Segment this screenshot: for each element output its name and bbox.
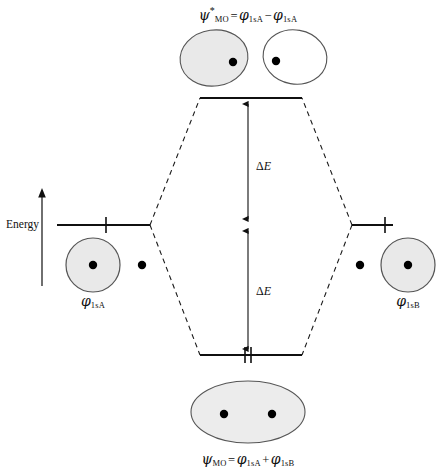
antibonding-left-lobe bbox=[176, 26, 251, 91]
energy-levels bbox=[57, 98, 393, 355]
antibonding-term2-subscript: 1sA bbox=[283, 14, 297, 24]
antibonding-formula-label: ψ*MO=φ1sA−φ1sA bbox=[199, 6, 297, 23]
antibonding-term2-phi: φ bbox=[273, 7, 283, 23]
left-ao-phi-symbol: φ bbox=[81, 293, 91, 309]
antibonding-orbital-group bbox=[176, 25, 331, 91]
antibonding-psi-subscript: MO bbox=[215, 14, 229, 24]
right-ao-subscript: 1sB bbox=[406, 300, 420, 310]
correlation-lines bbox=[150, 98, 352, 355]
bonding-nucleus-b bbox=[268, 410, 276, 418]
antibonding-right-nucleus bbox=[272, 57, 280, 65]
right-ao-phi-symbol: φ bbox=[396, 293, 406, 309]
right-ao-label: φ1sB bbox=[396, 294, 420, 310]
correlation-line-right-to-antibonding bbox=[302, 98, 352, 225]
antibonding-equals: = bbox=[229, 9, 239, 23]
right-atomic-orbital-group bbox=[356, 238, 435, 292]
delta-e-lower-delta: Δ bbox=[256, 284, 264, 298]
antibonding-psi-symbol: ψ bbox=[199, 7, 210, 23]
left-ao-subscript: 1sA bbox=[91, 300, 105, 310]
bonding-psi-subscript: MO bbox=[213, 458, 227, 468]
energy-axis bbox=[38, 188, 46, 286]
left-ao-label: φ1sA bbox=[81, 294, 105, 310]
bonding-equals: = bbox=[227, 453, 237, 467]
left-atomic-nucleus bbox=[89, 261, 97, 269]
diagram-canvas bbox=[0, 0, 447, 473]
bonding-formula-label: ψMO=φ1sA+φ1sB bbox=[202, 452, 295, 468]
antibonding-left-nucleus bbox=[229, 58, 237, 66]
antibonding-operator: − bbox=[263, 9, 273, 23]
bonding-psi-symbol: ψ bbox=[202, 451, 213, 467]
left-atomic-orbital-group bbox=[66, 238, 146, 292]
antibonding-right-lobe bbox=[259, 25, 331, 89]
delta-e-lower-symbol: E bbox=[264, 284, 271, 298]
delta-e-upper-symbol: E bbox=[264, 159, 271, 173]
correlation-line-left-to-bonding bbox=[150, 225, 200, 355]
bonding-term1-phi: φ bbox=[237, 451, 247, 467]
energy-axis-label: Energy bbox=[6, 219, 39, 231]
bonding-term1-subscript: 1sA bbox=[246, 458, 260, 468]
right-partner-nucleus bbox=[356, 261, 364, 269]
bonding-combined-lobe bbox=[191, 381, 305, 443]
left-partner-nucleus bbox=[138, 261, 146, 269]
correlation-line-left-to-antibonding bbox=[150, 98, 200, 225]
bonding-term2-subscript: 1sB bbox=[281, 458, 295, 468]
correlation-line-right-to-bonding bbox=[302, 225, 352, 355]
delta-e-upper-delta: Δ bbox=[256, 159, 264, 173]
delta-e-upper-label: ΔE bbox=[256, 160, 271, 172]
bonding-nucleus-a bbox=[220, 410, 228, 418]
delta-e-lower-label: ΔE bbox=[256, 285, 271, 297]
antibonding-term1-subscript: 1sA bbox=[249, 14, 263, 24]
mo-energy-diagram: ψ*MO=φ1sA−φ1sA ψMO=φ1sA+φ1sB φ1sA φ1sB Δ… bbox=[0, 0, 447, 473]
bonding-term2-phi: φ bbox=[271, 451, 281, 467]
up-arrow-icon bbox=[38, 188, 46, 198]
electron-ticks bbox=[106, 217, 385, 363]
bonding-operator: + bbox=[261, 453, 271, 467]
right-atomic-nucleus bbox=[404, 261, 412, 269]
bonding-orbital-group bbox=[191, 381, 305, 443]
antibonding-term1-phi: φ bbox=[239, 7, 249, 23]
